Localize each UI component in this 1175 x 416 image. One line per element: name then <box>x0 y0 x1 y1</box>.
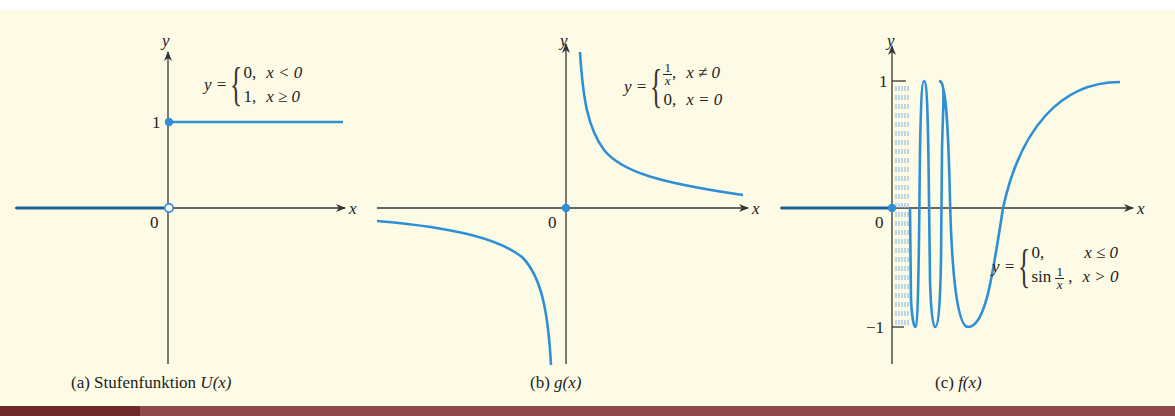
formula-cases: 0, x < 0 1, x ≥ 0 <box>243 62 302 108</box>
brace-icon: { <box>1018 244 1030 290</box>
formula-lhs: y = <box>624 77 647 97</box>
fraction-denominator: x <box>1057 279 1063 291</box>
formula-case: 0, x = 0 <box>663 89 722 111</box>
panel-c-tick-neg1: −1 <box>866 318 884 337</box>
panel-b-formula: y = { 1 x , x ≠ 0 0, x = 0 <box>624 62 722 111</box>
caption-prefix: (b) <box>530 373 554 392</box>
case-value-suffix: , <box>1064 267 1073 286</box>
fraction: 1 x <box>663 62 672 87</box>
caption-prefix: (a) Stufenfunktion <box>71 373 200 392</box>
brace-icon: { <box>650 64 662 110</box>
bottom-bar <box>0 406 1175 416</box>
panel-a-origin-label: 0 <box>150 213 159 232</box>
panel-c-dense-oscillation <box>896 86 908 325</box>
panel-a-y-label: y <box>160 31 170 50</box>
fraction: 1 x <box>1055 266 1064 291</box>
caption-function: g(x) <box>554 373 581 392</box>
case-value: 1, <box>243 86 256 108</box>
panel-b-origin-label: 0 <box>548 213 557 232</box>
panel-b-caption: (b) g(x) <box>530 373 581 393</box>
fraction-denominator: x <box>665 75 671 87</box>
panel-c-x-label: x <box>1136 199 1145 218</box>
case-condition: x ≠ 0 <box>686 62 720 87</box>
figure: y x 0 1 y x 0 <box>0 0 1175 416</box>
panel-c-formula: y = { 0, x ≤ 0 sin 1 x , x > 0 <box>992 242 1119 291</box>
panel-c-y-label: y <box>885 31 895 50</box>
case-value-prefix: sin <box>1031 267 1055 286</box>
formula-case: 1 x , x ≠ 0 <box>663 62 722 87</box>
panel-c-caption: (c) f(x) <box>935 373 982 393</box>
case-value: 0, <box>663 89 676 111</box>
caption-function: f(x) <box>958 373 982 392</box>
case-condition: x < 0 <box>266 62 302 84</box>
formula-lhs: y = <box>204 75 227 95</box>
formula-case: 0, x ≤ 0 <box>1031 242 1118 264</box>
panel-c-origin-dot <box>888 204 896 212</box>
panel-a-closed-dot <box>165 118 173 126</box>
case-condition: x ≥ 0 <box>266 86 300 108</box>
formula-cases: 0, x ≤ 0 sin 1 x , x > 0 <box>1031 242 1118 291</box>
panel-b-x-label: x <box>751 199 760 218</box>
case-condition: x = 0 <box>686 89 722 111</box>
formula-case: sin 1 x , x > 0 <box>1031 266 1118 291</box>
formula-case: 1, x ≥ 0 <box>243 86 302 108</box>
panel-c-plot: y x 0 1 −1 <box>780 31 1145 364</box>
caption-function: U(x) <box>200 373 231 392</box>
case-value-suffix: , <box>672 63 676 82</box>
panel-b-y-label: y <box>558 31 568 50</box>
panel-a-x-label: x <box>348 199 357 218</box>
plots-svg: y x 0 1 y x 0 <box>0 0 1175 416</box>
case-value: sin 1 x , <box>1031 266 1072 291</box>
panel-a-formula: y = { 0, x < 0 1, x ≥ 0 <box>204 62 302 108</box>
panel-c-origin-label: 0 <box>875 213 884 232</box>
panel-b-curve-left <box>377 221 551 365</box>
caption-prefix: (c) <box>935 373 958 392</box>
panel-b-origin-dot <box>562 204 570 212</box>
case-value: 0, <box>243 62 256 84</box>
panel-a-caption: (a) Stufenfunktion U(x) <box>71 373 232 393</box>
case-condition: x > 0 <box>1082 266 1118 291</box>
panel-a-open-dot <box>165 204 173 212</box>
formula-lhs: y = <box>992 257 1015 277</box>
case-condition: x ≤ 0 <box>1084 242 1118 264</box>
formula-case: 0, x < 0 <box>243 62 302 84</box>
panel-c-tick-1: 1 <box>879 72 888 91</box>
case-value: 1 x , <box>663 62 676 87</box>
formula-cases: 1 x , x ≠ 0 0, x = 0 <box>663 62 722 111</box>
panel-a-plot: y x 0 1 <box>15 31 357 364</box>
panel-a-tick-1: 1 <box>152 113 161 132</box>
brace-icon: { <box>230 62 242 108</box>
bottom-bar-light <box>140 406 1175 416</box>
case-value: 0, <box>1031 242 1044 264</box>
